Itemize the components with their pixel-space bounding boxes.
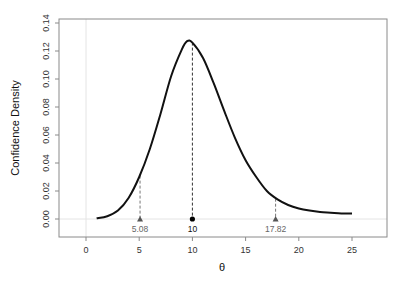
- density-curve: [97, 40, 352, 218]
- x-tick-label: 10: [187, 245, 197, 255]
- y-tick-label: 0.06: [41, 126, 51, 144]
- x-tick-label: 15: [241, 245, 251, 255]
- annotation-label: 5.08: [132, 224, 149, 234]
- x-tick-label: 20: [294, 245, 304, 255]
- y-tick-label: 0.00: [41, 210, 51, 228]
- plot-area-frame: [59, 19, 387, 237]
- point-estimate-marker: [190, 216, 195, 221]
- y-tick-label: 0.12: [41, 42, 51, 60]
- y-tick-label: 0.10: [41, 70, 51, 88]
- x-axis: 0510152025: [83, 237, 357, 255]
- confidence-density-chart: 0.000.020.040.060.080.100.120.14 0510152…: [0, 0, 411, 288]
- y-axis: 0.000.020.040.060.080.100.120.14: [41, 14, 59, 228]
- x-tick-label: 25: [347, 245, 357, 255]
- y-tick-label: 0.02: [41, 182, 51, 200]
- y-tick-label: 0.08: [41, 98, 51, 116]
- reference-lines: [59, 19, 387, 237]
- y-axis-title: Confidence Density: [9, 80, 21, 176]
- annotation-label: 17.82: [265, 224, 287, 234]
- x-tick-label: 0: [83, 245, 88, 255]
- x-axis-title: θ: [219, 261, 225, 273]
- annotation-label: 10: [188, 224, 198, 234]
- y-tick-label: 0.14: [41, 14, 51, 32]
- y-tick-label: 0.04: [41, 154, 51, 172]
- x-tick-label: 5: [137, 245, 142, 255]
